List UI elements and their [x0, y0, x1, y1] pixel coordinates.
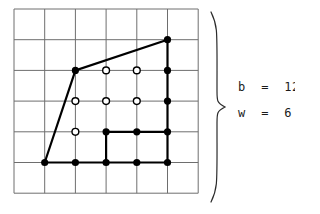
interior-count-label: w = 6	[238, 106, 292, 120]
boundary-point-filled	[164, 128, 171, 135]
interior-point-open	[133, 98, 140, 105]
boundary-point-filled	[72, 67, 79, 74]
boundary-point-filled	[164, 67, 171, 74]
interior-point-open	[133, 67, 140, 74]
curly-brace	[211, 12, 225, 202]
boundary-point-filled	[133, 128, 140, 135]
boundary-count-label: b = 12	[238, 80, 295, 94]
boundary-point-filled	[103, 128, 110, 135]
interior-point-open	[103, 98, 110, 105]
brace-path	[211, 12, 225, 202]
boundary-point-filled	[133, 159, 140, 166]
boundary-point-filled	[103, 159, 110, 166]
boundary-point-filled	[41, 159, 48, 166]
interior-point-open	[103, 67, 110, 74]
interior-point-open	[72, 128, 79, 135]
boundary-point-filled	[164, 159, 171, 166]
interior-point-open	[72, 98, 79, 105]
boundary-point-filled	[164, 98, 171, 105]
boundary-point-filled	[72, 159, 79, 166]
boundary-point-filled	[164, 36, 171, 43]
